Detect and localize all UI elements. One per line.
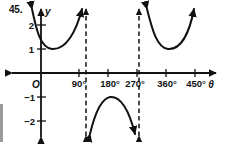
y-tick-label-2: 2: [29, 20, 34, 31]
curve-branch-left: [32, 9, 82, 49]
figure-container: 45.: [0, 0, 226, 145]
origin-label: O: [32, 79, 40, 90]
y-axis-label: y: [44, 6, 51, 17]
x-tick-label-180: 180°: [100, 78, 120, 89]
x-tick-label-270: 270°: [125, 78, 145, 89]
x-tick-label-450: 450°: [186, 78, 206, 89]
curve-branches-group: [32, 9, 194, 134]
y-tick-label-neg-2: −2: [24, 116, 35, 127]
coordinate-plane: 90° 180° 270° 360° 450° 2 1 −1 −2 y θ O: [0, 0, 226, 145]
x-axis-label: θ: [208, 79, 214, 90]
page-edge-mark: [0, 104, 3, 142]
y-tick-label-1: 1: [29, 44, 35, 55]
x-tick-label-90: 90°: [72, 78, 87, 89]
curve-branch-right: [147, 9, 194, 49]
x-tick-label-360: 360°: [157, 78, 177, 89]
curve-branch-middle: [90, 97, 135, 134]
figure-number-label: 45.: [9, 4, 22, 15]
y-tick-label-neg-1: −1: [24, 92, 36, 103]
x-tick-labels: 90° 180° 270° 360° 450°: [72, 78, 206, 89]
axes-group: [12, 9, 216, 137]
